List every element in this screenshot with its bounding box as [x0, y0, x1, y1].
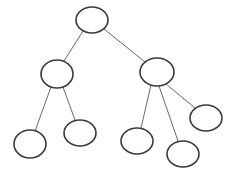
- node-leaf-5: [190, 105, 222, 131]
- node-leaf-4: [167, 141, 199, 167]
- tree-diagram: [0, 0, 230, 174]
- edge-right-leaf-3: [141, 85, 151, 128]
- nodes-group: [14, 7, 222, 167]
- edge-root-right: [104, 29, 145, 62]
- node-root: [76, 7, 108, 33]
- node-leaf-1: [14, 130, 46, 158]
- node-leaf-3: [121, 128, 153, 154]
- node-left: [41, 60, 73, 88]
- node-right: [140, 58, 174, 86]
- edge-left-leaf-1: [35, 87, 51, 131]
- edge-left-leaf-2: [63, 87, 75, 120]
- edge-right-leaf-5: [166, 84, 195, 108]
- node-leaf-2: [64, 120, 96, 146]
- edge-right-leaf-4: [159, 86, 178, 141]
- tree-diagram-svg: [0, 0, 230, 174]
- edge-root-left: [64, 31, 83, 61]
